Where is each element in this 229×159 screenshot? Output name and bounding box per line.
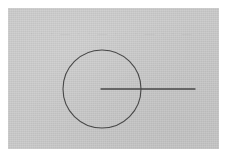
figure-root: · · · — · · — · · · — · · — · · · xyxy=(0,0,229,159)
drawing-canvas xyxy=(8,8,219,149)
paper-area: · · · — · · — · · · — · · — · · · xyxy=(8,8,219,149)
